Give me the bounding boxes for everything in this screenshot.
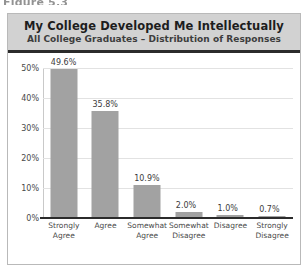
y-tick-label: 0% [26,214,39,223]
x-axis-line [40,217,293,219]
x-category-label: Strongly Disagree [251,221,293,240]
y-tick-label: 20% [21,154,39,163]
bar-slot [85,68,127,218]
bar-slot [210,68,252,218]
bar-data-label: 10.9% [134,174,159,183]
bar-slot [43,68,85,218]
bar[interactable] [92,111,119,218]
figure-container: Figure 5.3 My College Developed Me Intel… [0,0,307,273]
bar[interactable] [50,69,77,218]
x-axis-labels: Strongly AgreeAgreeSomewhat AgreeSomewha… [43,221,293,261]
bar-data-label: 1.0% [218,204,238,213]
bar-series: 49.6%35.8%10.9%2.0%1.0%0.7% [43,68,293,218]
bar-data-label: 49.6% [51,58,76,67]
bar[interactable] [134,185,161,218]
x-category-label: Disagree [210,221,252,231]
bar-slot [251,68,293,218]
plot-area: 0%10%20%30%40%50% 49.6%35.8%10.9%2.0%1.0… [8,56,301,264]
y-tick-label: 40% [21,94,39,103]
bar-data-label: 0.7% [259,205,279,214]
y-tick-label: 50% [21,64,39,73]
chart-subtitle: All College Graduates – Distribution of … [27,34,281,45]
figure-caption: Figure 5.3 [3,0,68,5]
y-tick-label: 30% [21,124,39,133]
chart-title: My College Developed Me Intellectually [24,20,284,33]
x-category-label: Somewhat Agree [126,221,168,240]
bar-data-label: 35.8% [93,100,118,109]
plot-box: 49.6%35.8%10.9%2.0%1.0%0.7% [43,68,293,218]
x-category-label: Strongly Agree [43,221,85,240]
chart-header: My College Developed Me Intellectually A… [8,14,300,53]
y-axis-labels: 0%10%20%30%40%50% [8,56,42,264]
chart-card: My College Developed Me Intellectually A… [7,13,301,265]
y-tick-label: 10% [21,184,39,193]
bar-slot [168,68,210,218]
bar-data-label: 2.0% [176,201,196,210]
x-category-label: Somewhat Disagree [168,221,210,240]
x-category-label: Agree [85,221,127,231]
bar-slot [126,68,168,218]
